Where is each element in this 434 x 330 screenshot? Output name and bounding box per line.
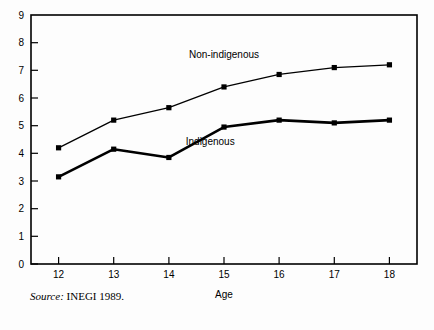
data-point-marker [221, 84, 226, 89]
data-point-marker [56, 174, 61, 179]
x-tick-label: 18 [384, 269, 396, 280]
y-tick-label: 5 [18, 120, 24, 131]
y-tick-label: 3 [18, 176, 24, 187]
data-point-marker [111, 118, 116, 123]
data-point-marker [56, 145, 61, 150]
data-point-marker [166, 105, 171, 110]
y-axis-tick-labels: 0 1 2 3 4 5 6 7 8 9 [18, 10, 24, 270]
y-tick-label: 4 [18, 148, 24, 159]
source-note: Source: INEGI 1989. [30, 290, 124, 302]
x-tick-label: 17 [329, 269, 341, 280]
y-tick-label: 9 [18, 10, 24, 21]
data-point-marker [332, 65, 337, 70]
data-point-marker [332, 120, 337, 125]
line-chart-plot: 0 1 2 3 4 5 6 7 8 9 12 13 14 15 16 [0, 0, 434, 330]
data-point-marker [387, 62, 392, 67]
x-axis-title: Age [215, 289, 233, 300]
y-tick-label: 2 [18, 203, 24, 214]
data-point-marker [387, 118, 392, 123]
x-tick-label: 13 [108, 269, 120, 280]
data-point-marker [277, 72, 282, 77]
y-tick-label: 6 [18, 93, 24, 104]
data-point-marker [111, 147, 116, 152]
x-tick-label: 16 [274, 269, 286, 280]
data-point-marker [166, 155, 171, 160]
y-axis-ticks [31, 43, 38, 264]
series-indigenous [56, 118, 392, 180]
y-tick-label: 8 [18, 37, 24, 48]
y-tick-label: 0 [18, 259, 24, 270]
source-prefix: Source: [30, 290, 64, 302]
x-axis-tick-labels: 12 13 14 15 16 17 18 [53, 269, 395, 280]
x-tick-label: 12 [53, 269, 65, 280]
series-label-indigenous: Indigenous [186, 136, 235, 147]
x-tick-label: 14 [163, 269, 175, 280]
data-point-marker [221, 124, 226, 129]
y-tick-label: 1 [18, 231, 24, 242]
x-axis-ticks [59, 257, 390, 264]
data-point-marker [277, 118, 282, 123]
series-label-non-indigenous: Non-indigenous [189, 49, 259, 60]
source-text: INEGI 1989. [64, 290, 124, 302]
y-tick-label: 7 [18, 65, 24, 76]
x-tick-label: 15 [218, 269, 230, 280]
chart-figure: 0 1 2 3 4 5 6 7 8 9 12 13 14 15 16 [0, 0, 434, 330]
